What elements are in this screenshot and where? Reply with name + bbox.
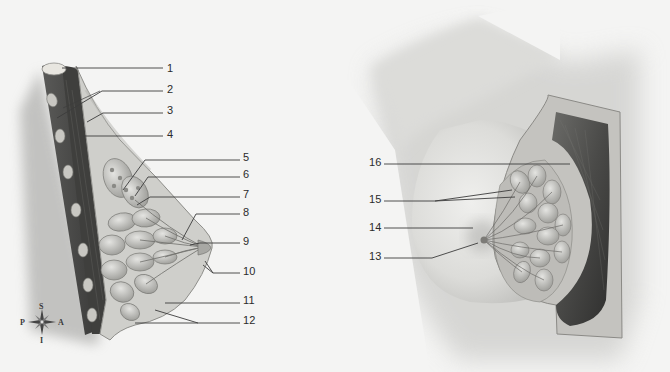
label-13: 13 — [369, 250, 382, 262]
label-8: 8 — [243, 206, 249, 218]
label-11: 11 — [243, 294, 255, 306]
label-5: 5 — [243, 151, 249, 163]
label-10: 10 — [243, 265, 256, 277]
compass-posterior: P — [20, 318, 25, 327]
compass-superior: S — [39, 302, 43, 311]
compass-inferior: I — [40, 336, 43, 345]
clavicle — [42, 63, 66, 75]
label-14: 14 — [369, 221, 382, 233]
label-4: 4 — [167, 128, 173, 140]
label-7: 7 — [243, 188, 249, 200]
label-3: 3 — [167, 104, 173, 116]
illustration-canvas — [0, 0, 670, 372]
label-16: 16 — [369, 156, 382, 168]
anatomy-diagram: 1 2 3 4 5 6 7 8 9 10 11 12 16 15 14 13 S… — [0, 0, 670, 372]
label-6: 6 — [243, 168, 249, 180]
label-2: 2 — [167, 83, 173, 95]
label-15: 15 — [369, 193, 382, 205]
compass-anterior: A — [58, 318, 64, 327]
anterior-view-illustration — [335, 0, 640, 372]
nipple-anterior — [481, 237, 488, 244]
label-12: 12 — [243, 314, 256, 326]
label-9: 9 — [243, 235, 249, 247]
label-1: 1 — [167, 62, 173, 74]
